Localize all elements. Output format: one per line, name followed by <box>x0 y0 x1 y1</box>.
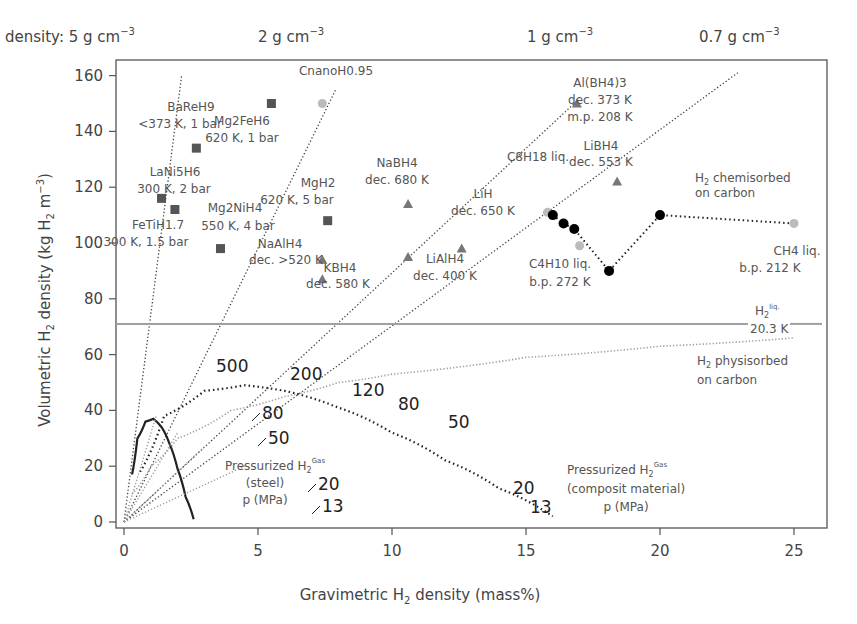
composite-label-2: (composit material) <box>567 482 685 496</box>
point-label: LiH <box>473 187 492 201</box>
chemisorbed-label-2: on carbon <box>695 186 755 200</box>
y-tick-label: 20 <box>84 457 103 475</box>
x-tick-label: 25 <box>784 542 803 560</box>
y-tick-label: 100 <box>74 234 103 252</box>
point-sublabel: 300 K, 1.5 bar <box>103 235 188 249</box>
point-sublabel: dec. 400 K <box>413 269 478 283</box>
composite-pressure-label: 20 <box>513 478 535 498</box>
y-tick-label: 60 <box>84 346 103 364</box>
point-sublabel: dec. >520 K <box>249 253 324 267</box>
y-tick-label: 160 <box>74 67 103 85</box>
point-sublabel: dec. 680 K <box>365 173 430 187</box>
pressure-isobar <box>124 447 204 522</box>
x-tick-label: 20 <box>650 542 669 560</box>
pressure-isobar <box>124 466 245 522</box>
point-sublabel: 300 K, 2 bar <box>137 182 211 196</box>
triangle-marker <box>612 177 622 186</box>
composite-pressure-curve <box>140 385 553 516</box>
physisorbed-label-2: on carbon <box>697 373 757 387</box>
pressure-tick <box>308 484 316 492</box>
triangle-marker <box>403 199 413 208</box>
steel-label: Pressurized H2Gas <box>225 457 325 475</box>
circle-marker <box>575 241 584 250</box>
hydrogen-storage-chart: 0510152025020406080100120140160density: … <box>0 0 857 624</box>
point-label: LaNi5H6 <box>150 165 201 179</box>
point-sublabel: 620 K, 5 bar <box>260 193 334 207</box>
pressure-tick <box>258 438 266 446</box>
square-marker <box>323 216 332 225</box>
chemisorbed-label: H2 chemisorbed <box>695 171 791 187</box>
point-label: CnanoH0.95 <box>299 64 373 78</box>
physisorbed-label: H2 physisorbed <box>697 354 788 370</box>
square-marker <box>216 244 225 253</box>
composite-pressure-label: 13 <box>530 497 552 517</box>
circle-marker <box>318 99 327 108</box>
steel-label-2: (steel) <box>246 476 284 490</box>
point-label: MgH2 <box>301 176 336 190</box>
h2-liquid-label: H2liq. <box>755 303 780 320</box>
y-tick-label: 40 <box>84 401 103 419</box>
square-marker <box>267 99 276 108</box>
point-sublabel: 620 K, 1 bar <box>205 131 279 145</box>
composite-pressure-label: 80 <box>398 394 420 414</box>
point-sublabel: <373 K, 1 bar <box>138 117 222 131</box>
black-circle-marker <box>655 210 665 220</box>
point-label: Al(BH4)3 <box>573 76 626 90</box>
composite-pressure-label: 120 <box>352 380 384 400</box>
steel-pressure-label: 13 <box>322 496 344 516</box>
composite-label: Pressurized H2Gas <box>567 461 667 479</box>
point-label: Mg2NiH4 <box>208 201 263 215</box>
black-circle-marker <box>559 218 569 228</box>
black-circle-marker <box>569 224 579 234</box>
point-label: NaAlH4 <box>258 237 303 251</box>
point-sublabel: dec. 650 K <box>451 204 516 218</box>
circle-marker <box>790 219 799 228</box>
black-circle-marker <box>604 266 614 276</box>
x-tick-label: 5 <box>253 542 263 560</box>
x-tick-label: 15 <box>516 542 535 560</box>
point-label: LiBH4 <box>584 139 619 153</box>
composite-pressure-label: 500 <box>216 356 248 376</box>
axes: 0510152025020406080100120140160density: … <box>5 26 804 560</box>
steel-pressure-curve <box>132 419 194 519</box>
point-label: BaReH9 <box>167 100 214 114</box>
point-sublabel: dec. 373 K <box>568 93 633 107</box>
point-labels: 8050201350020012080502013BaReH9<373 K, 1… <box>103 64 820 517</box>
y-tick-label: 80 <box>84 290 103 308</box>
composite-pressure-label: 50 <box>448 412 470 432</box>
steel-pressure-label: 80 <box>262 403 284 423</box>
y-axis-label: Volumetric H2 density (kg H2 m−3) <box>35 173 56 427</box>
square-marker <box>170 205 179 214</box>
point-label: NaBH4 <box>376 156 417 170</box>
composite-label-3: p (MPa) <box>603 500 648 514</box>
h2-liquid-temp: 20.3 K <box>750 322 790 336</box>
pressure-tick <box>312 506 320 514</box>
point-label: C8H18 liq. <box>507 150 569 164</box>
y-tick-label: 0 <box>93 513 103 531</box>
point-label: LiAlH4 <box>426 252 464 266</box>
density-line <box>124 90 336 522</box>
steel-pressure-label: 50 <box>268 428 290 448</box>
point-label: Mg2FeH6 <box>214 114 270 128</box>
y-tick-label: 140 <box>74 122 103 140</box>
point-sublabel: b.p. 272 K <box>529 275 591 289</box>
x-tick-label: 0 <box>119 542 129 560</box>
point-sublabel: 550 K, 4 bar <box>201 219 275 233</box>
density-label: 2 g cm−3 <box>258 26 324 46</box>
point-sublabel: dec. 580 K <box>306 277 371 291</box>
density-label: 1 g cm−3 <box>527 26 593 46</box>
x-tick-label: 10 <box>382 542 401 560</box>
square-marker <box>192 144 201 153</box>
point-label: CH4 liq. <box>774 244 821 258</box>
steel-pressure-label: 20 <box>318 474 340 494</box>
triangle-marker <box>403 252 413 261</box>
point-label: FeTiH1.7 <box>132 218 184 232</box>
steel-label-3: p (MPa) <box>242 493 287 507</box>
point-sublabel: dec. 553 K <box>569 155 634 169</box>
pressure-tick <box>252 413 260 421</box>
density-label: density: 5 g cm−3 <box>5 26 135 46</box>
y-tick-label: 120 <box>74 178 103 196</box>
point-sublabel: m.p. 208 K <box>567 110 633 124</box>
density-label: 0.7 g cm−3 <box>699 26 780 46</box>
point-label: KBH4 <box>324 261 357 275</box>
